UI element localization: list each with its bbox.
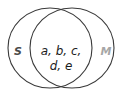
set-label-left: S: [14, 45, 22, 58]
set-label-right: M: [101, 45, 112, 58]
venn-diagram-figure: S M a, b, c, d, e: [0, 0, 122, 97]
intersection-elements-line-1: a, b, c,: [41, 44, 82, 58]
intersection-elements-line-2: d, e: [50, 59, 73, 73]
venn-diagram-svg: S M a, b, c, d, e: [0, 0, 122, 97]
